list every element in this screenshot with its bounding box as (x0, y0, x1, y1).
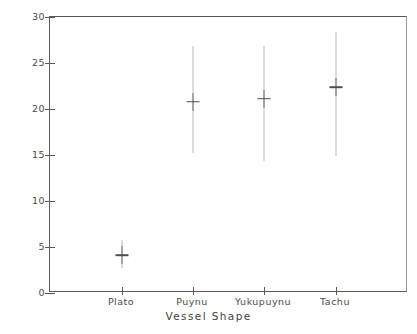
data-point-plato (116, 254, 129, 256)
y-tick-label: 10 (32, 194, 45, 207)
data-point-yukupuynu (258, 98, 271, 100)
x-tick-tachu (336, 287, 337, 295)
y-tick-mark (45, 63, 55, 64)
y-tick-label: 30 (32, 10, 45, 23)
x-tick-label-yukupuynu: Yukupuynu (235, 296, 291, 307)
y-tick-label: 25 (32, 56, 45, 69)
plot-area: 051015202530 (49, 16, 407, 292)
y-tick-label: 0 (39, 286, 45, 299)
y-tick-mark (45, 109, 55, 110)
x-tick-label-puynu: Puynu (176, 296, 208, 307)
x-tick-yukupuynu (264, 287, 265, 295)
x-tick-label-tachu: Tachu (320, 296, 350, 307)
y-tick-mark (45, 247, 55, 248)
y-tick-mark (45, 201, 55, 202)
y-tick-mark (45, 17, 55, 18)
x-tick-puynu (193, 287, 194, 295)
y-tick-label: 15 (32, 148, 45, 161)
x-tick-plato (122, 287, 123, 295)
data-point-puynu (187, 101, 200, 103)
y-tick-mark (45, 155, 55, 156)
x-tick-label-plato: Plato (108, 296, 134, 307)
y-tick-mark (45, 293, 55, 294)
y-tick-label: 5 (39, 240, 45, 253)
y-tick-label: 20 (32, 102, 45, 115)
data-point-tachu (330, 86, 343, 88)
figure-container: Height of Vessel (in cm) 051015202530 Pl… (0, 0, 417, 334)
x-axis-title: Vessel Shape (0, 310, 417, 322)
